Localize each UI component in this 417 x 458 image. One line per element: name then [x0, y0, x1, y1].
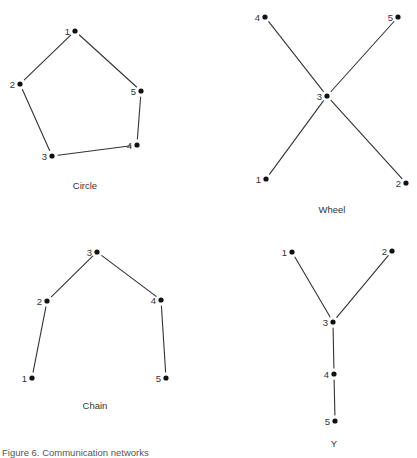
- node-dot-icon: [332, 418, 337, 423]
- node-y-2: 2: [382, 246, 395, 257]
- edge-circle-5-1: [79, 35, 136, 87]
- edge-wheel-3-1: [270, 101, 324, 174]
- node-label: 5: [325, 416, 330, 427]
- node-wheel-3: 3: [317, 91, 330, 102]
- node-dot-icon: [324, 93, 329, 98]
- edge-wheel-3-4: [269, 22, 324, 92]
- node-dot-icon: [389, 248, 394, 253]
- edge-chain-3-4: [102, 256, 156, 297]
- network-label-chain: Chain: [83, 400, 108, 411]
- networks-layer: 12345Circle12345Wheel12345Chain12345Y: [10, 12, 409, 450]
- node-label: 5: [388, 12, 393, 23]
- node-dot-icon: [49, 153, 54, 158]
- node-label: 4: [127, 140, 132, 151]
- node-label: 2: [396, 178, 401, 189]
- node-label: 2: [382, 246, 387, 257]
- node-label: 3: [87, 247, 92, 258]
- edge-chain-1-2: [33, 307, 46, 372]
- node-dot-icon: [72, 28, 77, 33]
- node-wheel-5: 5: [388, 12, 401, 23]
- edge-y-1-3: [295, 257, 330, 317]
- edge-chain-4-5: [161, 306, 165, 372]
- node-y-4: 4: [324, 369, 337, 380]
- node-dot-icon: [395, 14, 400, 19]
- node-dot-icon: [44, 298, 49, 303]
- edge-y-3-4: [333, 328, 334, 368]
- edge-wheel-3-2: [331, 100, 402, 178]
- node-chain-1: 1: [22, 373, 35, 384]
- node-dot-icon: [158, 297, 163, 302]
- node-label: 5: [156, 373, 161, 384]
- node-dot-icon: [94, 249, 99, 254]
- edge-circle-2-3: [22, 90, 49, 151]
- network-label-y: Y: [331, 438, 338, 449]
- node-circle-2: 2: [10, 79, 23, 90]
- network-circle: 12345Circle: [10, 26, 144, 192]
- node-dot-icon: [262, 14, 267, 19]
- edge-circle-3-4: [58, 146, 131, 155]
- node-chain-5: 5: [156, 373, 169, 384]
- edge-circle-4-5: [137, 97, 140, 139]
- node-chain-2: 2: [37, 296, 50, 307]
- network-label-wheel: Wheel: [319, 204, 346, 215]
- node-y-1: 1: [282, 247, 295, 258]
- figure-caption: Figure 6. Communication networks: [2, 447, 149, 458]
- node-dot-icon: [330, 319, 335, 324]
- node-label: 1: [65, 26, 70, 37]
- node-dot-icon: [138, 88, 143, 93]
- network-y: 12345Y: [282, 246, 395, 450]
- node-chain-4: 4: [151, 295, 164, 306]
- edge-chain-2-3: [51, 256, 92, 297]
- node-dot-icon: [29, 375, 34, 380]
- node-dot-icon: [17, 81, 22, 86]
- node-y-5: 5: [325, 416, 338, 427]
- node-circle-3: 3: [42, 151, 55, 162]
- edge-y-4-5: [334, 380, 335, 415]
- node-label: 3: [42, 151, 47, 162]
- node-wheel-4: 4: [255, 12, 268, 23]
- node-label: 4: [255, 12, 260, 23]
- node-dot-icon: [134, 142, 139, 147]
- network-wheel: 12345Wheel: [255, 12, 409, 216]
- node-wheel-1: 1: [256, 174, 269, 185]
- node-label: 5: [131, 86, 136, 97]
- edge-circle-1-2: [24, 35, 70, 80]
- node-label: 2: [10, 79, 15, 90]
- node-label: 1: [22, 373, 27, 384]
- communication-networks-figure: 12345Circle12345Wheel12345Chain12345Y Fi…: [0, 0, 417, 458]
- node-dot-icon: [163, 375, 168, 380]
- node-circle-4: 4: [127, 140, 140, 151]
- node-label: 3: [317, 91, 322, 102]
- node-dot-icon: [289, 249, 294, 254]
- node-label: 1: [282, 247, 287, 258]
- edge-y-2-3: [337, 256, 388, 318]
- node-dot-icon: [263, 176, 268, 181]
- node-circle-1: 1: [65, 26, 78, 37]
- node-label: 4: [151, 295, 156, 306]
- network-label-circle: Circle: [73, 180, 97, 191]
- edge-wheel-3-5: [331, 22, 394, 92]
- node-circle-5: 5: [131, 86, 144, 97]
- node-label: 2: [37, 296, 42, 307]
- network-chain: 12345Chain: [22, 247, 169, 412]
- node-dot-icon: [403, 180, 408, 185]
- node-chain-3: 3: [87, 247, 100, 258]
- node-label: 4: [324, 369, 329, 380]
- node-label: 3: [323, 317, 328, 328]
- node-dot-icon: [331, 371, 336, 376]
- node-wheel-2: 2: [396, 178, 409, 189]
- node-y-3: 3: [323, 317, 336, 328]
- node-label: 1: [256, 174, 261, 185]
